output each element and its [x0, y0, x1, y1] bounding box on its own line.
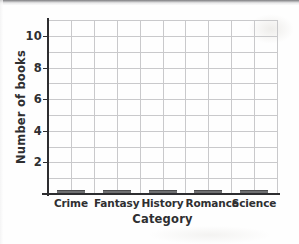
x-axis-tick-label: Romance — [185, 197, 231, 209]
y-axis-tick-mark — [43, 36, 48, 37]
y-axis-tick-mark — [43, 162, 48, 163]
y-axis-title: Number of books — [14, 47, 28, 167]
y-axis-tick-mark — [43, 99, 48, 100]
paper-texture-blotch — [150, 226, 270, 244]
y-axis-line — [47, 18, 49, 196]
x-axis-tick-label: History — [140, 197, 186, 209]
gridline-vertical — [277, 20, 278, 194]
x-axis-tick-label: Science — [231, 197, 277, 209]
y-axis-tick-mark — [43, 68, 48, 69]
bars-layer — [48, 20, 277, 194]
x-axis-title: Category — [48, 212, 277, 226]
x-axis-tick-label: Crime — [48, 197, 94, 209]
y-axis-tick-label: 10 — [2, 29, 42, 43]
chart-page: 246810 Category Number of books CrimeFan… — [0, 0, 299, 244]
y-axis-tick-mark — [43, 131, 48, 132]
x-axis-line — [42, 193, 280, 195]
x-axis-tick-label: Fantasy — [94, 197, 140, 209]
scan-edge-artifact-top — [0, 0, 299, 5]
